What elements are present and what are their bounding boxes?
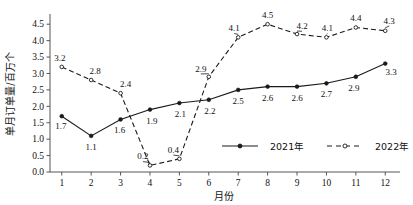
data-label: 1.7 xyxy=(55,121,67,131)
y-axis-tick-label: 0.5 xyxy=(32,151,44,161)
x-axis-tick-label: 2 xyxy=(89,178,94,188)
data-label: 4.2 xyxy=(296,21,307,31)
data-point-marker xyxy=(207,98,211,102)
x-axis-tick-label: 6 xyxy=(206,178,211,188)
data-label: 2.5 xyxy=(233,96,245,106)
data-point-marker xyxy=(60,114,64,118)
y-axis-tick-label: 3.5 xyxy=(32,52,44,62)
data-point-marker xyxy=(383,62,387,66)
data-point-marker xyxy=(354,75,358,79)
data-point-marker xyxy=(266,85,270,89)
data-point-marker xyxy=(60,65,64,69)
x-axis-title: 月份 xyxy=(214,191,234,202)
data-label: 2.8 xyxy=(90,66,102,76)
x-axis-tick-label: 9 xyxy=(295,178,300,188)
legend-item-2022年[interactable]: 2022年 xyxy=(327,141,409,152)
data-label: 2.2 xyxy=(204,106,215,116)
data-point-marker xyxy=(383,29,387,33)
data-label: 2.9 xyxy=(348,83,360,93)
legend-label: 2021年 xyxy=(270,141,304,152)
x-axis-tick-label: 4 xyxy=(148,178,153,188)
data-point-marker xyxy=(354,26,358,30)
data-label-leader xyxy=(326,34,327,35)
legend-item-2021年[interactable]: 2021年 xyxy=(222,141,304,152)
chart-canvas: 0.00.51.01.52.02.53.03.54.04.51234567891… xyxy=(0,0,413,205)
data-label: 2.6 xyxy=(262,93,274,103)
line-chart: 0.00.51.01.52.02.53.03.54.04.51234567891… xyxy=(0,0,413,205)
data-point-marker xyxy=(295,32,299,36)
x-axis-tick-label: 1 xyxy=(59,178,64,188)
data-label: 0.2 xyxy=(137,151,148,161)
data-point-marker xyxy=(236,36,240,40)
data-label: 1.1 xyxy=(86,142,97,152)
y-axis-title: 单月订单量/百万个 xyxy=(5,52,16,135)
y-axis-tick-label: 1.0 xyxy=(32,134,44,144)
y-axis-tick-label: 0.0 xyxy=(32,167,44,177)
x-axis-tick-label: 10 xyxy=(322,178,332,188)
x-axis-tick-label: 3 xyxy=(118,178,123,188)
x-axis-tick-label: 7 xyxy=(236,178,241,188)
data-label: 4.3 xyxy=(384,16,396,26)
data-label: 1.9 xyxy=(146,116,158,126)
data-label: 4.4 xyxy=(350,13,362,23)
data-label-leader xyxy=(385,26,389,28)
data-point-marker xyxy=(236,88,240,92)
data-point-marker xyxy=(119,91,123,95)
data-label: 2.7 xyxy=(321,89,333,99)
data-point-marker xyxy=(119,118,123,122)
x-axis-tick-label: 12 xyxy=(380,178,390,188)
data-label: 1.6 xyxy=(114,125,126,135)
y-axis-tick-label: 4.5 xyxy=(32,19,44,29)
data-label: 3.3 xyxy=(386,67,398,77)
data-label: 3.2 xyxy=(54,53,65,63)
y-axis-tick-label: 2.0 xyxy=(32,102,44,112)
data-label: 2.9 xyxy=(195,64,207,74)
x-axis-tick-label: 5 xyxy=(177,178,182,188)
data-point-marker xyxy=(325,36,329,40)
data-label: 4.1 xyxy=(229,23,240,33)
data-point-marker xyxy=(266,22,270,26)
y-axis-tick-label: 1.5 xyxy=(32,118,44,128)
legend-marker xyxy=(238,144,242,148)
data-point-marker xyxy=(89,78,93,82)
x-axis-tick-label: 11 xyxy=(351,178,360,188)
data-point-marker xyxy=(178,157,182,161)
y-axis-tick-label: 2.5 xyxy=(32,85,44,95)
data-label: 2.1 xyxy=(175,109,186,119)
data-point-marker xyxy=(148,108,152,112)
series-line-2021年 xyxy=(62,64,385,136)
legend-marker xyxy=(343,144,347,148)
data-point-marker xyxy=(89,134,93,138)
data-point-marker xyxy=(295,85,299,89)
y-axis-tick-label: 3.0 xyxy=(32,69,44,79)
data-label: 2.4 xyxy=(120,79,132,89)
data-label-leader xyxy=(234,34,238,35)
data-point-marker xyxy=(207,75,211,79)
data-point-marker xyxy=(325,81,329,85)
y-axis-tick-label: 4.0 xyxy=(32,36,44,46)
data-label: 2.6 xyxy=(291,93,303,103)
legend-label: 2022年 xyxy=(375,141,409,152)
data-label: 4.5 xyxy=(262,10,274,20)
x-axis-tick-label: 8 xyxy=(265,178,270,188)
data-label-leader xyxy=(173,155,179,156)
data-point-marker xyxy=(148,164,152,168)
data-label: 0.4 xyxy=(168,145,180,155)
data-label: 4.1 xyxy=(322,23,333,33)
data-point-marker xyxy=(177,101,181,105)
